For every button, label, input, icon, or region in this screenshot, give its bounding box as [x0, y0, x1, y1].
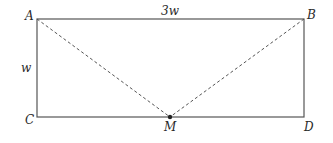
segment-AM [37, 19, 170, 117]
segment-BM [170, 19, 304, 117]
label-A: A [24, 9, 34, 23]
dimension-left-label: w [21, 61, 32, 75]
dimension-top-label: 3w [161, 4, 180, 18]
label-B: B [306, 8, 316, 22]
label-D: D [303, 120, 314, 134]
rectangle-ABDC [37, 19, 304, 117]
point-M-dot [168, 115, 172, 119]
label-C: C [25, 113, 34, 127]
rectangle-diagram: A B C D M 3w w [0, 0, 333, 143]
label-M: M [163, 120, 177, 134]
